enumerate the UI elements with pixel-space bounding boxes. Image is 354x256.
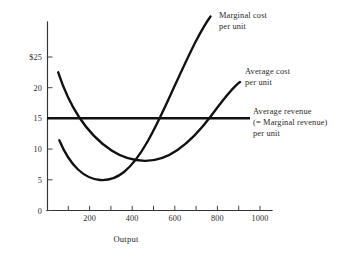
x-axis-title: Output: [113, 234, 138, 244]
x-tick-label-200: 200: [83, 214, 96, 223]
x-axis-ticks: [68, 206, 260, 211]
x-tick-label-400: 400: [126, 214, 139, 223]
annotation-average-revenue-line-1: Average revenue: [253, 106, 328, 117]
x-tick-label-1000: 1000: [252, 214, 269, 223]
annotation-average-cost-line-2: per unit: [245, 77, 290, 88]
annotation-marginal-cost-line-1: Marginal cost: [219, 10, 267, 21]
x-tick-label-600: 600: [168, 214, 181, 223]
y-tick-label-15: 15: [14, 114, 42, 123]
annotation-average-cost-line-1: Average cost: [245, 66, 290, 77]
y-tick-label-5: 5: [14, 175, 42, 184]
y-tick-label-0: 0: [14, 206, 42, 215]
y-tick-label-25: $25: [14, 53, 42, 62]
annotation-marginal-cost-line-2: per unit: [219, 21, 267, 32]
x-tick-label-800: 800: [211, 214, 224, 223]
average-cost-curve: [58, 72, 240, 161]
y-tick-label-20: 20: [14, 83, 42, 92]
annotation-average-revenue: Average revenue (= Marginal revenue) per…: [253, 106, 328, 140]
annotation-average-revenue-line-3: per unit: [253, 128, 328, 139]
marginal-cost-curve: [59, 17, 210, 181]
annotation-marginal-cost: Marginal cost per unit: [219, 10, 267, 32]
annotation-average-cost: Average cost per unit: [245, 66, 290, 88]
y-tick-label-10: 10: [14, 145, 42, 154]
y-axis-ticks: [48, 57, 53, 211]
cost-revenue-chart: $25 20 15 10 5 0 200 400 600 800 1000 Ou…: [0, 0, 354, 256]
annotation-average-revenue-line-2: (= Marginal revenue): [253, 117, 328, 128]
